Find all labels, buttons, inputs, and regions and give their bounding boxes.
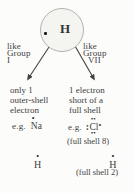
right-description-line-3: full shell bbox=[69, 105, 105, 115]
left-branch-arrow bbox=[28, 47, 49, 79]
hydrogen-example-left: •H bbox=[34, 159, 41, 170]
eg-label-right: e.g. bbox=[68, 122, 82, 132]
left-branch-label: like Group I bbox=[7, 43, 31, 64]
chlorine-full-shell-note: (full shell 8) bbox=[67, 136, 109, 146]
left-branch-description: only 1 outer-shell electron bbox=[10, 85, 48, 115]
right-description-line-1: 1 electron bbox=[69, 85, 105, 95]
right-branch-description: 1 electron short of a full shell bbox=[69, 85, 105, 115]
left-description-line-3: electron bbox=[10, 105, 48, 115]
electron-dot: • bbox=[32, 117, 35, 121]
eg-label-left: e.g. bbox=[12, 121, 26, 131]
electron-dot: • bbox=[36, 155, 39, 159]
electron-dots-bottom: •• bbox=[91, 131, 96, 135]
right-branch-label: like Group VII bbox=[83, 43, 107, 64]
sodium-example: e.g.•Na bbox=[12, 121, 42, 131]
hydrogen-atom-circle: H bbox=[40, 8, 84, 52]
sodium-lewis-structure: •Na bbox=[31, 121, 42, 131]
electron-dot: • bbox=[111, 155, 114, 159]
right-branch-label-line-3: VII bbox=[88, 57, 107, 64]
electron-dot-right: • bbox=[98, 121, 101, 130]
chlorine-example: e.g.••:Cl••• bbox=[68, 121, 101, 132]
right-description-line-2: short of a bbox=[69, 95, 105, 105]
left-description-line-2: outer-shell bbox=[10, 95, 48, 105]
chlorine-lewis-structure: ••:Cl••• bbox=[86, 121, 101, 132]
electron-dots-top: •• bbox=[91, 117, 96, 121]
left-branch-label-line-3: I bbox=[7, 57, 31, 64]
hydrogen-symbol: H bbox=[44, 21, 86, 37]
left-description-line-1: only 1 bbox=[10, 85, 48, 95]
left-branch-label-line-2: Group bbox=[7, 50, 31, 57]
hydrogen-full-shell-note: (full shell 2) bbox=[76, 167, 118, 177]
hydrogen-group-diagram: H like Group I like Group VII only 1 out… bbox=[0, 0, 134, 193]
